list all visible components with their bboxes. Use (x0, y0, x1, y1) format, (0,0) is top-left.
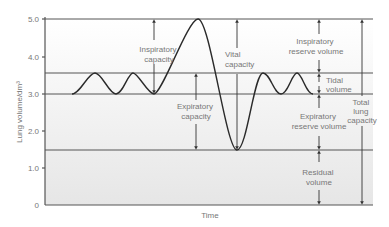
x-axis-label: Time (201, 211, 219, 220)
label-residual-volume: Residual volume (302, 168, 335, 187)
tick-4: 4.0 (28, 53, 40, 62)
tick-0: 0 (35, 201, 40, 210)
label-inspiratory-reserve-volume: Inspiratory reserve volume (289, 37, 344, 56)
lung-volume-diagram: 5.0 4.0 3.0 2.0 1.0 0 Lung volume/dm³ Ti… (0, 0, 389, 227)
label-expiratory-capacity: Expiratory capacity (177, 102, 215, 121)
tick-5: 5.0 (28, 15, 40, 24)
tick-3: 3.0 (28, 90, 40, 99)
label-inspiratory-capacity: Inspiratory capacity (139, 45, 179, 64)
tick-2: 2.0 (28, 127, 40, 136)
tick-1: 1.0 (28, 164, 40, 173)
y-tick-labels: 5.0 4.0 3.0 2.0 1.0 0 (28, 15, 40, 210)
y-axis-label: Lung volume/dm³ (15, 81, 24, 143)
